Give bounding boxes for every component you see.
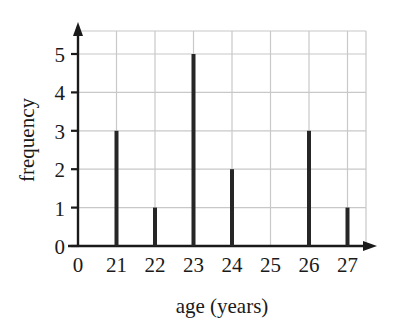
x-tick-label: 0 [73, 253, 84, 277]
x-axis-title: age (years) [176, 294, 269, 318]
y-tick-label: 4 [55, 81, 66, 105]
frequency-bar-chart: 012345 021222324252627 age (years) frequ… [0, 0, 395, 326]
bar-21 [115, 131, 119, 246]
x-axis-arrow-icon [363, 241, 377, 251]
bar-23 [192, 54, 196, 246]
x-tick-label: 25 [260, 253, 281, 277]
bar-22 [153, 208, 157, 246]
bar-24 [230, 169, 234, 246]
y-axis-arrow-icon [73, 22, 83, 36]
x-tick-label: 27 [337, 253, 358, 277]
bar-27 [346, 208, 350, 246]
x-tick-label: 24 [222, 253, 244, 277]
x-tick-label: 22 [145, 253, 166, 277]
horizontal-gridlines [78, 31, 366, 208]
y-axis-title: frequency [15, 98, 39, 182]
x-tick-label: 23 [183, 253, 204, 277]
bar-26 [307, 131, 311, 246]
y-tick-label: 5 [55, 43, 66, 67]
y-tick-label: 3 [55, 120, 66, 144]
chart-axes [68, 22, 377, 251]
y-axis-tick-labels: 012345 [55, 43, 66, 259]
x-tick-label: 21 [106, 253, 127, 277]
x-tick-label: 26 [299, 253, 320, 277]
x-axis-tick-labels: 021222324252627 [73, 253, 358, 277]
y-tick-label: 0 [55, 235, 66, 259]
y-tick-label: 1 [55, 197, 66, 221]
y-tick-label: 2 [55, 158, 66, 182]
chart-container: 012345 021222324252627 age (years) frequ… [0, 0, 395, 326]
